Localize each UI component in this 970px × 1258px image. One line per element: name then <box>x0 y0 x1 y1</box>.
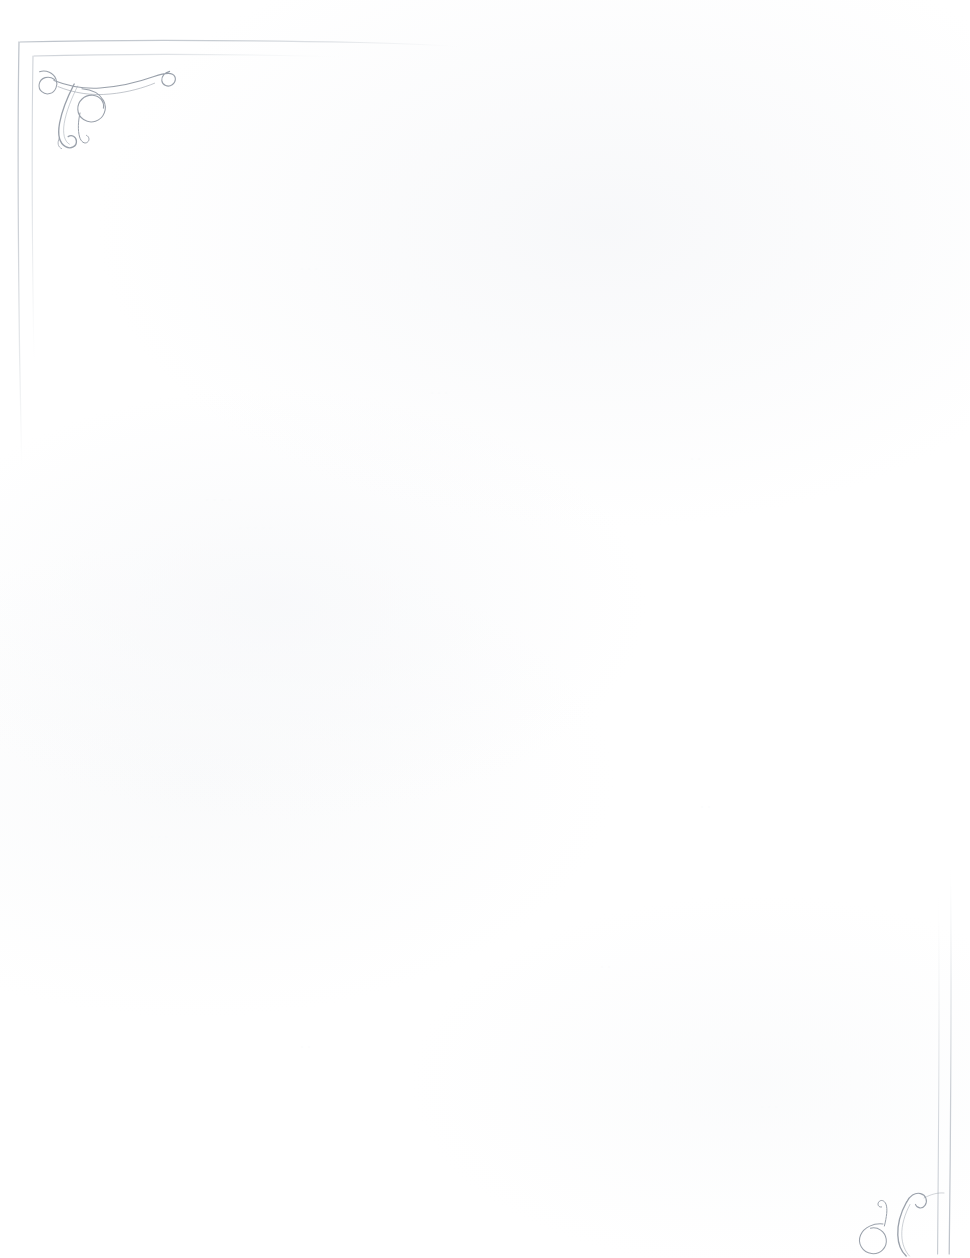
bleed-through-mark: · · · · <box>250 548 277 564</box>
paper-grain-texture <box>0 0 970 1258</box>
bleed-through-mark: · · · · · <box>238 520 273 536</box>
bleed-through-mark: · · · <box>430 386 448 401</box>
bleed-through-mark: · · · · <box>205 492 232 508</box>
bleed-through-mark: · · <box>300 1040 311 1055</box>
scanned-page: · · · ·· · · · ·· · · ·· · · ·· · ·· · ·… <box>0 0 970 1258</box>
bleed-through-mark: · · · · <box>536 196 561 211</box>
bleed-through-mark: · · <box>600 960 611 975</box>
bleed-through-mark: · · · · <box>178 760 203 775</box>
left-rule <box>8 36 54 496</box>
bleed-through-mark: · · <box>700 800 711 815</box>
bleed-through-mark: · · <box>640 334 651 349</box>
bleed-through-mark: · · · <box>150 830 168 845</box>
bleed-through-mark: · · · <box>760 1100 778 1115</box>
bleed-through-mark: · · · · <box>246 578 275 594</box>
bleed-through-mark: · · <box>690 452 701 467</box>
top-rule <box>0 30 500 70</box>
corner-flourish-bottom-right <box>848 1182 958 1258</box>
bleed-through-mark: · · · <box>300 262 318 277</box>
bleed-through-mark: · · · · · <box>110 742 142 757</box>
bleed-through-mark: · · · <box>252 608 273 624</box>
right-rule <box>916 860 970 1258</box>
bleed-through-mark: · · · <box>380 700 398 715</box>
bleed-through-mark: · · <box>560 222 571 237</box>
bleed-through-mark: · · · <box>520 170 538 185</box>
corner-flourish-top-left <box>28 58 188 158</box>
